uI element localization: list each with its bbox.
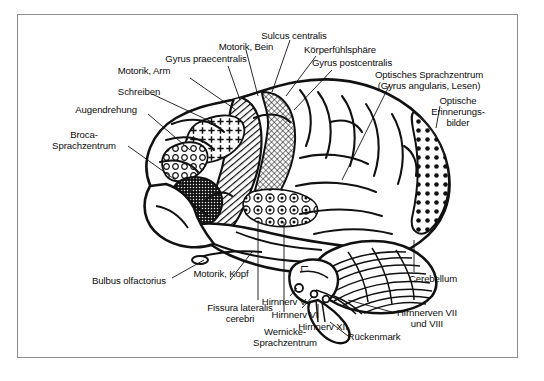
label-bulbus-olfactorius: Bulbus olfactorius (76, 275, 182, 286)
figure-canvas: ⊏ (0, 0, 544, 381)
label-schreiben: Schreiben (104, 86, 174, 97)
label-motorik-kopf: Motorik, Kopf (176, 268, 266, 279)
label-broca-sprachzentrum: Broca- Sprachzentrum (32, 129, 136, 151)
label-motorik-arm: Motorik, Arm (98, 65, 190, 76)
label-rueckenmark: Rückenmark (331, 331, 417, 342)
label-motorik-bein: Motorik, Bein (199, 41, 293, 52)
label-hirnnerv-vi: Hirnnerv VI (258, 309, 332, 320)
label-sulcus-centralis: Sulcus centralis (244, 30, 344, 41)
label-optische-erinnerungsbilder: Optische Erinnerungs- bilder (410, 95, 506, 129)
label-hirnnerven-vii-und-viii: Hirnnerven VII und VIII (378, 307, 476, 329)
label-gyrus-praecentralis: Gyrus praecentralis (144, 53, 268, 64)
leader-gyrus-praecentralis (228, 66, 240, 100)
label-augendrehung: Augendrehung (56, 104, 156, 115)
label-hirnnerv-v: Hirnnerv V (248, 296, 320, 307)
label-optisches-sprachzentrum: Optisches Sprachzentrum (Gyrus angularis… (347, 69, 511, 91)
label-gyrus-postcentralis: Gyrus postcentralis (295, 57, 409, 68)
label-koerperfuehlsphaere: Körperfühlsphäre (286, 44, 394, 55)
label-cerebellum: Cerebellum (392, 273, 474, 284)
svg-text:⊏: ⊏ (300, 262, 309, 274)
